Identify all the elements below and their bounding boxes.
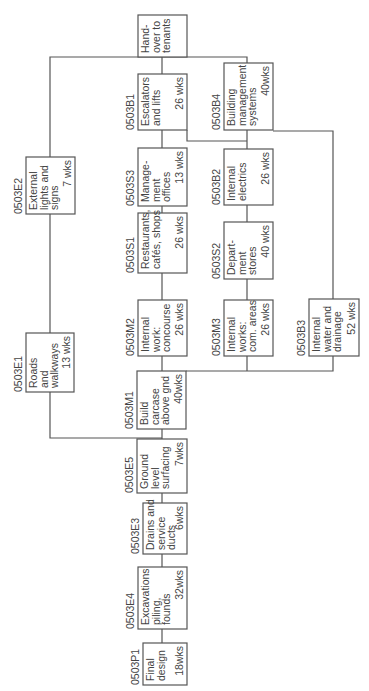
precedence-diagram: 0503P1Finaldesign18wks0503E4Excavationsp… bbox=[0, 0, 369, 691]
connector-m1-m3-b3 bbox=[186, 356, 333, 371]
activity-code: 0503P1 bbox=[129, 649, 141, 685]
activity-code: 0503B1 bbox=[124, 94, 136, 130]
activity-duration: 52 wks bbox=[345, 302, 357, 335]
activity-description-line: and lifts bbox=[150, 90, 162, 126]
activity-description-line: electrics bbox=[236, 162, 248, 201]
activity-code: 0503E5 bbox=[123, 457, 135, 493]
activity-code: 0503M1 bbox=[123, 391, 135, 429]
activity-description-line: systems bbox=[246, 87, 258, 126]
activity-node-s3: 0503S3Manage-mentoffices13 wks bbox=[124, 148, 187, 206]
connector-b3-b4 bbox=[273, 131, 333, 299]
activity-node-e1: 0503E1Roadsandwalkways13 wks bbox=[12, 333, 74, 392]
activity-description-line: walkways bbox=[48, 343, 60, 389]
activity-code: 0503M2 bbox=[124, 318, 136, 356]
activity-node-s2: 0503S2Depart-mentstores40 wks bbox=[210, 222, 273, 279]
activity-code: 0503S1 bbox=[124, 237, 136, 273]
activity-code: 0503B4 bbox=[210, 94, 222, 130]
activity-description-line: concourse bbox=[160, 303, 172, 352]
activity-duration: 40 wks bbox=[259, 225, 271, 258]
activity-description-line: founds bbox=[160, 593, 172, 625]
activity-code: 0503E3 bbox=[129, 518, 141, 554]
diagram-canvas: 0503P1Finaldesign18wks0503E4Excavationsp… bbox=[0, 0, 369, 691]
activity-code: 0503S2 bbox=[210, 243, 222, 279]
activity-node-m3: 0503M3Internalworks:com. areas26 wks bbox=[210, 300, 273, 356]
activity-duration: 26 wks bbox=[173, 216, 185, 249]
activity-code: 0503E1 bbox=[12, 356, 24, 392]
activity-node-e2: 0503E2Externallights andsigns7 wks bbox=[12, 157, 75, 214]
activity-duration: 40wks bbox=[259, 66, 271, 96]
activity-description-line: drainage bbox=[331, 311, 343, 352]
activity-duration: 40wks bbox=[172, 374, 184, 404]
activity-node-e5: 0503E5Groundlevelsurfacing7wks bbox=[123, 439, 187, 493]
activity-duration: 6wks bbox=[173, 506, 185, 530]
activity-node-b1: 0503B1Escalatorsand lifts26 wks bbox=[124, 74, 187, 130]
activity-node-m1: 0503M1Buildcarcaseabove gnd40wks bbox=[123, 371, 186, 429]
activity-duration: 32wks bbox=[173, 570, 185, 600]
activity-node-b4: 0503B4Buildingmanagementsystems40wks bbox=[210, 63, 273, 130]
activity-node-ho: Hand-over totenants bbox=[138, 15, 187, 57]
activity-duration: 7 wks bbox=[61, 160, 73, 187]
activity-duration: 7wks bbox=[173, 442, 185, 466]
activity-description-line: offices bbox=[160, 172, 172, 202]
activity-description-line: tenants bbox=[160, 19, 172, 53]
activity-description-line: stores bbox=[246, 246, 258, 275]
activity-description-line: surfacing bbox=[159, 446, 171, 489]
activity-duration: 26 wks bbox=[259, 303, 271, 336]
activity-description-line: design bbox=[155, 650, 167, 681]
activity-node-e3: 0503E3Drains andserviceducts6wks bbox=[129, 499, 187, 554]
activity-node-e4: 0503E4Excavationspiling,founds32wks bbox=[124, 567, 187, 629]
activity-duration: 18wks bbox=[173, 646, 185, 676]
connector-lines bbox=[50, 57, 333, 643]
activity-duration: 13 wks bbox=[60, 336, 72, 369]
activity-duration: 26 wks bbox=[259, 152, 271, 185]
activity-nodes: 0503P1Finaldesign18wks0503E4Excavationsp… bbox=[12, 15, 359, 685]
activity-description-line: com. areas bbox=[246, 300, 258, 352]
activity-duration: 26 wks bbox=[173, 303, 185, 336]
activity-node-b2: 0503B2Internalelectrics26 wks bbox=[210, 149, 273, 205]
activity-code: 0503B3 bbox=[295, 320, 307, 356]
activity-node-s1: 0503S1Restaurants,cafés, shops26 wks bbox=[124, 209, 187, 273]
activity-description-line: above gnd bbox=[159, 376, 171, 425]
activity-code: 0503E4 bbox=[124, 593, 136, 629]
activity-code: 0503E2 bbox=[12, 178, 24, 214]
activity-node-m2: 0503M2Internalwork:concourse26 wks bbox=[124, 300, 187, 356]
activity-code: 0503M3 bbox=[210, 318, 222, 356]
activity-node-b3: 0503B3Internalwater anddrainage52 wks bbox=[295, 299, 359, 356]
activity-description-line: signs bbox=[48, 185, 60, 210]
activity-code: 0503B2 bbox=[210, 169, 222, 205]
connector-b1-b2 bbox=[187, 130, 247, 141]
activity-duration: 26 wks bbox=[173, 77, 185, 110]
activity-description-line: cafés, shops bbox=[150, 210, 162, 269]
activity-duration: 13 wks bbox=[173, 151, 185, 184]
activity-code: 0503S3 bbox=[124, 170, 136, 206]
activity-node-p1: 0503P1Finaldesign18wks bbox=[129, 643, 187, 685]
